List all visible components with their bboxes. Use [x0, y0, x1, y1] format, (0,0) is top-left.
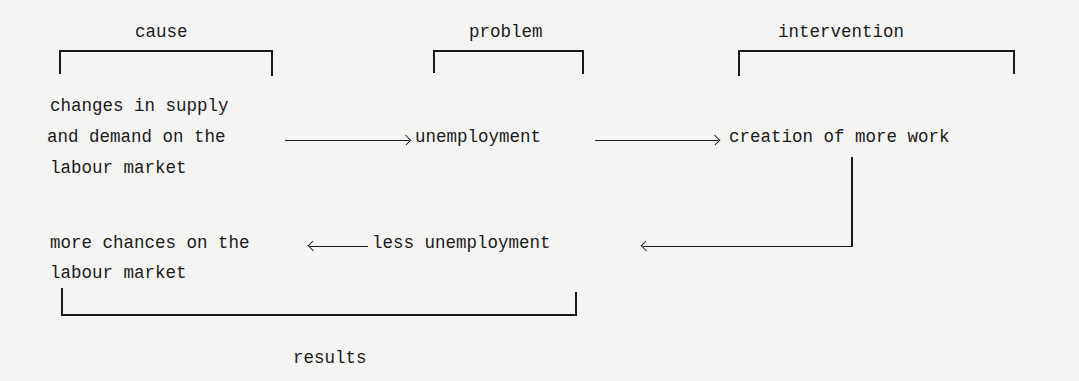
more-chances-line-1: more chances on the — [50, 233, 250, 253]
cause-line-1: changes in supply — [50, 96, 229, 116]
arrow-cause-to-problem — [285, 140, 409, 141]
cause-line-2: and demand on the — [47, 127, 226, 147]
arrow-result-to-chances — [310, 246, 368, 247]
bracket-label-results: results — [293, 348, 367, 368]
more-chances-line-2: labour market — [50, 263, 187, 283]
arrow-problem-to-intervention — [595, 140, 718, 141]
bracket-label-problem: problem — [469, 22, 543, 42]
cause-line-3: labour market — [50, 158, 187, 178]
node-intervention: creation of more work — [729, 127, 950, 147]
node-less-unemployment: less unemployment — [372, 233, 551, 253]
bracket-label-intervention: intervention — [778, 22, 904, 42]
node-problem: unemployment — [415, 127, 541, 147]
bracket-label-cause: cause — [135, 22, 188, 42]
